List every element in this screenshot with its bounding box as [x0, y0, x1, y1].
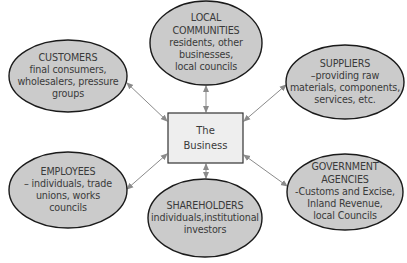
government-agencies-title: GOVERNMENT — [311, 161, 378, 173]
suppliers-line-2: materials, components, — [290, 82, 400, 94]
customers-line-2: wholesalers, pressure — [17, 76, 118, 88]
business-label: The Business — [168, 113, 243, 163]
government-agencies-line-1: AGENCIES — [321, 174, 369, 186]
shareholders-title: SHAREHOLDERS — [166, 200, 243, 212]
local-communities-line-3: businesses, — [179, 49, 233, 61]
employees-node: EMPLOYEES – individuals, trade unions, w… — [9, 152, 127, 228]
suppliers-line-1: –providing raw — [311, 70, 379, 82]
customers-line-3: groups — [52, 88, 84, 100]
government-agencies-node: GOVERNMENT AGENCIES -Customs and Excise,… — [287, 154, 403, 230]
employees-title: EMPLOYEES — [41, 166, 96, 178]
government-agencies-line-2: -Customs and Excise, — [295, 186, 395, 198]
customers-title: CUSTOMERS — [39, 52, 98, 64]
shareholders-line-1: individuals,institutional — [151, 212, 259, 224]
suppliers-title: SUPPLIERS — [320, 58, 370, 70]
customers-node: CUSTOMERS final consumers, wholesalers, … — [9, 40, 127, 112]
shareholders-line-2: investors — [184, 224, 227, 236]
employees-line-1: – individuals, trade — [24, 178, 112, 190]
government-agencies-line-4: local Councils — [313, 210, 377, 222]
business-line-1: The — [196, 123, 215, 138]
shareholders-node: SHAREHOLDERS individuals,institutional i… — [148, 179, 262, 257]
connector-customers — [127, 83, 167, 121]
suppliers-node: SUPPLIERS –providing raw materials, comp… — [286, 45, 404, 119]
local-communities-line-2: residents, other — [169, 37, 242, 49]
customers-line-1: final consumers, — [30, 64, 107, 76]
suppliers-line-3: services, etc. — [314, 94, 375, 106]
local-communities-line-4: local councils — [175, 61, 237, 73]
government-agencies-line-3: Inland Revenue, — [307, 198, 382, 210]
local-communities-title: LOCAL — [191, 12, 221, 24]
local-communities-line-1: COMMUNITIES — [172, 25, 239, 37]
connector-suppliers — [244, 85, 286, 121]
employees-line-2: unions, works — [36, 190, 100, 202]
business-line-2: Business — [183, 138, 227, 153]
employees-line-3: councils — [49, 202, 87, 214]
local-communities-node: LOCAL COMMUNITIES residents, other busin… — [150, 1, 262, 85]
